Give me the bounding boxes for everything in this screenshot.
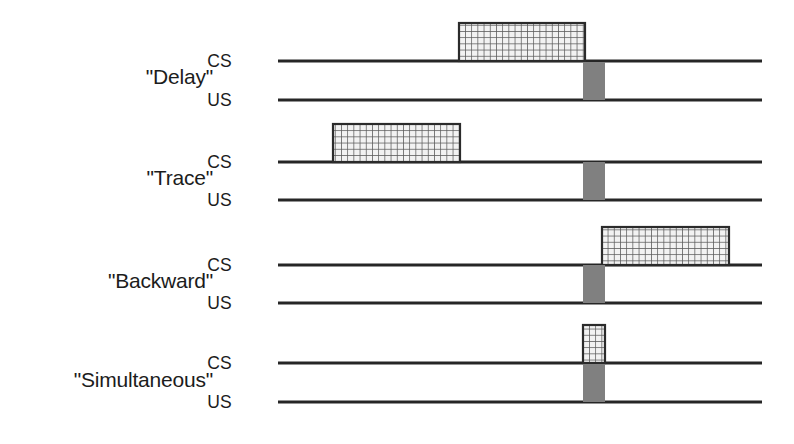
us-stimulus-bar-trace xyxy=(583,162,605,200)
channel-label-cs-simultaneous: CS xyxy=(207,353,232,373)
paradigm-label-trace: "Trace" xyxy=(147,166,213,189)
channel-label-cs-delay: CS xyxy=(207,51,232,71)
cs-stimulus-bar-backward xyxy=(602,227,729,265)
channel-label-us-delay: US xyxy=(207,90,232,110)
cs-stimulus-bar-simultaneous xyxy=(583,325,605,363)
us-stimulus-bar-simultaneous xyxy=(583,364,605,402)
channel-label-cs-backward: CS xyxy=(207,255,232,275)
channel-label-cs-trace: CS xyxy=(207,152,232,172)
channel-label-us-trace: US xyxy=(207,190,232,210)
us-stimulus-bar-delay xyxy=(583,62,605,100)
paradigm-label-simultaneous: "Simultaneous" xyxy=(74,368,213,391)
us-stimulus-bar-backward xyxy=(583,265,605,303)
paradigm-label-delay: "Delay" xyxy=(146,65,213,88)
conditioning-paradigm-figure: "Delay"CSUS"Trace"CSUS"Backward"CSUS"Sim… xyxy=(0,0,794,444)
cs-stimulus-bar-trace xyxy=(333,124,460,162)
timing-diagram-svg: "Delay"CSUS"Trace"CSUS"Backward"CSUS"Sim… xyxy=(0,0,794,444)
cs-stimulus-bar-delay xyxy=(459,23,585,61)
channel-label-us-backward: US xyxy=(207,293,232,313)
channel-label-us-simultaneous: US xyxy=(207,392,232,412)
paradigm-label-backward: "Backward" xyxy=(108,269,213,292)
